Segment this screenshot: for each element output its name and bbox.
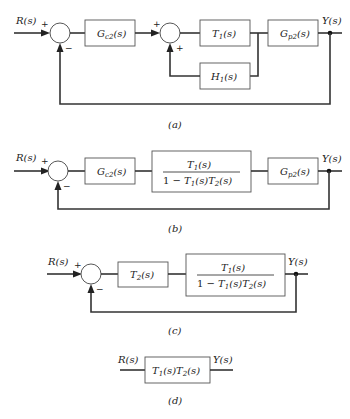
arrow-icon	[41, 30, 50, 37]
inner-feedback-line	[170, 47, 200, 76]
arrow-icon	[57, 43, 64, 52]
output-label: Y(s)	[322, 153, 342, 164]
minus-sign: −	[63, 181, 71, 191]
caption-d: (d)	[168, 395, 182, 406]
input-label: R(s)	[47, 256, 69, 267]
arrow-icon	[55, 181, 62, 190]
arrow-icon	[151, 30, 160, 37]
output-label: Y(s)	[288, 256, 308, 267]
input-label: R(s)	[117, 354, 139, 365]
minus-sign: −	[96, 284, 104, 294]
summing-junction-2	[160, 23, 180, 43]
plus-sign: +	[41, 156, 49, 166]
caption-b: (b)	[168, 223, 182, 234]
arrow-icon	[167, 43, 174, 52]
summing-junction	[48, 161, 68, 181]
input-label: R(s)	[15, 15, 37, 26]
plus-sign: +	[41, 19, 49, 29]
panel-c: R(s) + − T2(s) T1(s) 1 − T1(s)T2(s) Y(s)…	[47, 254, 308, 336]
output-label: Y(s)	[322, 15, 342, 26]
panel-b: R(s) + − Gc2(s) T1(s) 1 − T1(s)T2(s) Gp2…	[14, 151, 342, 234]
summing-junction	[81, 264, 101, 284]
panel-a: R(s) + − Gc2(s) + + T1(s) H1(s) Gp2(s) Y…	[14, 15, 342, 130]
block-diagram-figure: R(s) + − Gc2(s) + + T1(s) H1(s) Gp2(s) Y…	[0, 0, 350, 419]
summing-junction-1	[50, 23, 70, 43]
minus-sign: −	[65, 43, 73, 53]
output-label: Y(s)	[213, 354, 233, 365]
panel-d: R(s) T1(s)T2(s) Y(s) (d)	[117, 354, 233, 406]
plus-sign: +	[74, 260, 82, 270]
inner-feedback-line	[250, 33, 258, 76]
input-label: R(s)	[15, 152, 37, 163]
caption-c: (c)	[168, 325, 182, 336]
plus-sign: +	[176, 43, 184, 53]
arrow-icon	[88, 284, 95, 293]
caption-a: (a)	[168, 119, 182, 130]
plus-sign: +	[153, 19, 161, 29]
